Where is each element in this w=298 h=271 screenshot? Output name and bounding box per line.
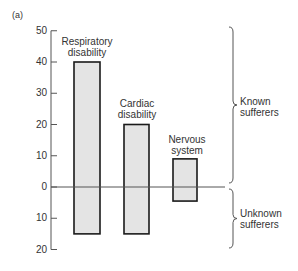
brace-label-line: sufferers <box>240 219 282 230</box>
unknown-sufferers-label: Unknown sufferers <box>240 208 282 230</box>
bar-label-nervous: Nervous system <box>155 134 219 156</box>
y-tick-label: 20 <box>23 120 47 130</box>
bar-label-line: disability <box>55 47 119 58</box>
brace-label-line: Known <box>240 96 279 107</box>
y-tick-label: 10 <box>23 151 47 161</box>
bar-label-cardiac: Cardiac disability <box>105 98 169 120</box>
known-sufferers-brace <box>229 27 237 183</box>
y-tick-label: 30 <box>23 88 47 98</box>
y-tick-label: 50 <box>23 26 47 36</box>
y-tick-label: 20 <box>23 245 47 255</box>
unknown-sufferers-brace <box>229 189 237 248</box>
bar-label-line: Cardiac <box>105 98 169 109</box>
brace-label-line: sufferers <box>240 107 279 118</box>
y-tick-label: 0 <box>23 182 47 192</box>
y-tick-label: 40 <box>23 57 47 67</box>
bar-label-line: disability <box>105 109 169 120</box>
bar-label-line: Nervous <box>155 134 219 145</box>
known-sufferers-label: Known sufferers <box>240 96 279 118</box>
bar-1 <box>124 125 149 234</box>
bar-label-line: Respiratory <box>55 36 119 47</box>
bar-0 <box>74 62 100 234</box>
bar-chart <box>0 0 298 271</box>
bar-label-line: system <box>155 145 219 156</box>
y-tick-label: 10 <box>23 213 47 223</box>
bar-2 <box>173 159 197 201</box>
bar-label-respiratory: Respiratory disability <box>55 36 119 58</box>
brace-label-line: Unknown <box>240 208 282 219</box>
